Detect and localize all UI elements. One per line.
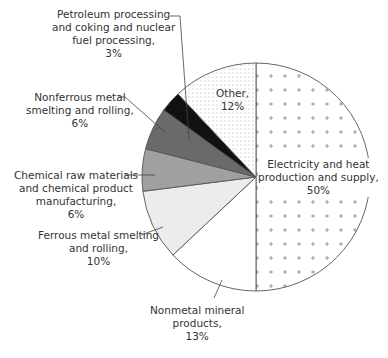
label-line: 6% [26, 117, 134, 130]
label-line: Other, [216, 87, 249, 100]
label-line: 10% [38, 255, 159, 268]
label-chemical: Chemical raw materials and chemical prod… [14, 169, 138, 221]
label-line: 13% [150, 330, 244, 343]
label-other: Other, 12% [216, 87, 249, 113]
label-electricity: Electricity and heat production and supp… [258, 158, 379, 197]
label-line: Nonferrous metal [26, 91, 134, 104]
label-petroleum: Petroleum processing and coking and nucl… [52, 8, 175, 60]
label-line: 50% [258, 184, 379, 197]
label-line: 12% [216, 100, 249, 113]
label-line: Petroleum processing [52, 8, 175, 21]
label-line: fuel processing, [52, 34, 175, 47]
label-line: Chemical raw materials [14, 169, 138, 182]
label-line: 6% [14, 208, 138, 221]
label-line: production and supply, [258, 171, 379, 184]
label-line: and coking and nuclear [52, 21, 175, 34]
label-line: and chemical product [14, 182, 138, 195]
label-nonmetal: Nonmetal mineral products, 13% [150, 304, 244, 343]
label-line: Nonmetal mineral [150, 304, 244, 317]
label-line: manufacturing, [14, 195, 138, 208]
label-nonferrous: Nonferrous metal smelting and rolling, 6… [26, 91, 134, 130]
label-line: Ferrous metal smelting [38, 229, 159, 242]
label-ferrous: Ferrous metal smelting and rolling, 10% [38, 229, 159, 268]
label-line: smelting and rolling, [26, 104, 134, 117]
label-line: and rolling, [38, 242, 159, 255]
label-line: Electricity and heat [258, 158, 379, 171]
label-line: 3% [52, 47, 175, 60]
label-line: products, [150, 317, 244, 330]
